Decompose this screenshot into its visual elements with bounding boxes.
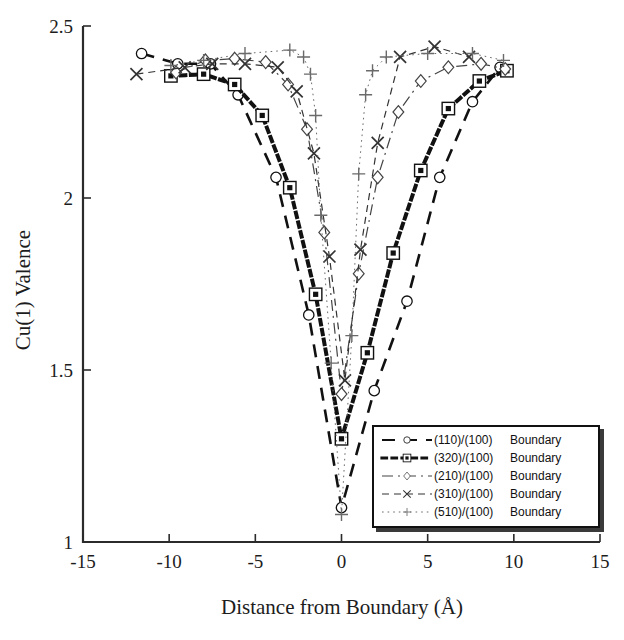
- legend-swatch-210: [380, 468, 434, 484]
- x-tick-labels: -15-10-5051015: [70, 551, 609, 572]
- y-axis-title: Cu(1) Valence: [11, 230, 35, 350]
- data-point-square-dot: [309, 288, 321, 300]
- data-point-circle: [467, 96, 477, 106]
- data-point-circle: [404, 437, 410, 443]
- legend-item[interactable]: (210)/(100)Boundary: [380, 467, 592, 485]
- legend-label-110: (110)/(100)Boundary: [434, 433, 561, 447]
- x-tick-label: 10: [504, 551, 523, 572]
- x-axis-title: Distance from Boundary (Å): [221, 595, 463, 619]
- y-tick-label: 2.5: [49, 16, 73, 37]
- data-point-circle: [435, 172, 445, 182]
- legend-swatch-320: [380, 450, 434, 466]
- x-tick-label: -15: [70, 551, 95, 572]
- data-point-cross-x: [429, 41, 441, 53]
- data-point-square-dot: [387, 247, 399, 259]
- series-line: [176, 59, 505, 394]
- series-1: [165, 65, 513, 445]
- data-point-square-dot: [197, 68, 209, 80]
- data-point-diamond: [372, 171, 383, 184]
- x-tick-label: -5: [247, 551, 263, 572]
- series-3: [130, 41, 475, 387]
- data-point-circle: [136, 48, 146, 58]
- data-point-diamond: [476, 57, 487, 70]
- legend-swatch-110: [380, 432, 434, 448]
- legend-label-210: (210)/(100)Boundary: [434, 469, 561, 483]
- legend-label-310: (310)/(100)Boundary: [434, 487, 561, 501]
- x-tick-label: -10: [157, 551, 182, 572]
- legend-item[interactable]: (110)/(100)Boundary: [380, 431, 592, 449]
- y-tick-labels: 11.522.5: [49, 16, 73, 553]
- data-point-diamond: [443, 61, 454, 74]
- data-point-cross-x: [323, 250, 335, 262]
- y-tick-label: 1: [64, 532, 74, 553]
- data-point-square-dot: [415, 164, 427, 176]
- data-point-diamond: [404, 472, 411, 480]
- x-tick-label: 5: [423, 551, 433, 572]
- chart-figure: -15-10-5051015 11.522.5 Distance from Bo…: [0, 0, 624, 640]
- chart-legend[interactable]: (110)/(100)Boundary (320)/(100)Boundary …: [372, 425, 600, 528]
- data-point-plus: [314, 209, 327, 222]
- y-tick-label: 2: [64, 188, 74, 209]
- x-tick-label: 15: [591, 551, 610, 572]
- data-point-cross-x: [372, 137, 384, 149]
- legend-item[interactable]: (310)/(100)Boundary: [380, 485, 592, 503]
- data-point-plus: [238, 47, 251, 60]
- data-point-plus: [304, 68, 317, 81]
- data-point-circle: [304, 310, 314, 320]
- data-point-cross-x: [291, 85, 303, 97]
- data-point-plus: [403, 508, 411, 516]
- data-point-diamond: [319, 226, 330, 239]
- data-point-plus: [352, 167, 365, 180]
- legend-swatch-310: [380, 486, 434, 502]
- data-point-diamond: [302, 123, 313, 136]
- x-tick-label: 0: [337, 551, 347, 572]
- data-point-diamond: [393, 106, 404, 119]
- legend-swatch-510: [380, 504, 434, 520]
- data-point-circle: [369, 385, 379, 395]
- data-point-plus: [359, 88, 372, 101]
- data-point-square-dot: [284, 181, 296, 193]
- data-point-plus: [345, 329, 358, 342]
- data-point-square-dot: [256, 109, 268, 121]
- data-point-circle: [402, 296, 412, 306]
- data-point-plus: [297, 50, 310, 63]
- legend-item[interactable]: (510)/(100)Boundary: [380, 503, 592, 521]
- data-point-square-dot: [361, 347, 373, 359]
- legend-item[interactable]: (320)/(100)Boundary: [380, 449, 592, 467]
- data-point-circle: [271, 172, 281, 182]
- legend-label-320: (320)/(100)Boundary: [434, 451, 561, 465]
- data-point-cross-x: [394, 51, 406, 63]
- data-point-square-dot: [228, 78, 240, 90]
- data-point-plus: [283, 44, 296, 57]
- y-tick-label: 1.5: [49, 360, 73, 381]
- data-point-diamond: [336, 388, 347, 401]
- data-point-plus: [309, 109, 322, 122]
- data-point-cross-x: [463, 51, 475, 63]
- series-line: [171, 71, 507, 439]
- data-point-square-dot: [403, 454, 411, 462]
- data-point-square-dot: [473, 75, 485, 87]
- chart-plot-area: -15-10-5051015 11.522.5 Distance from Bo…: [0, 0, 624, 640]
- legend-label-510: (510)/(100)Boundary: [434, 505, 561, 519]
- data-point-square-dot: [442, 102, 454, 114]
